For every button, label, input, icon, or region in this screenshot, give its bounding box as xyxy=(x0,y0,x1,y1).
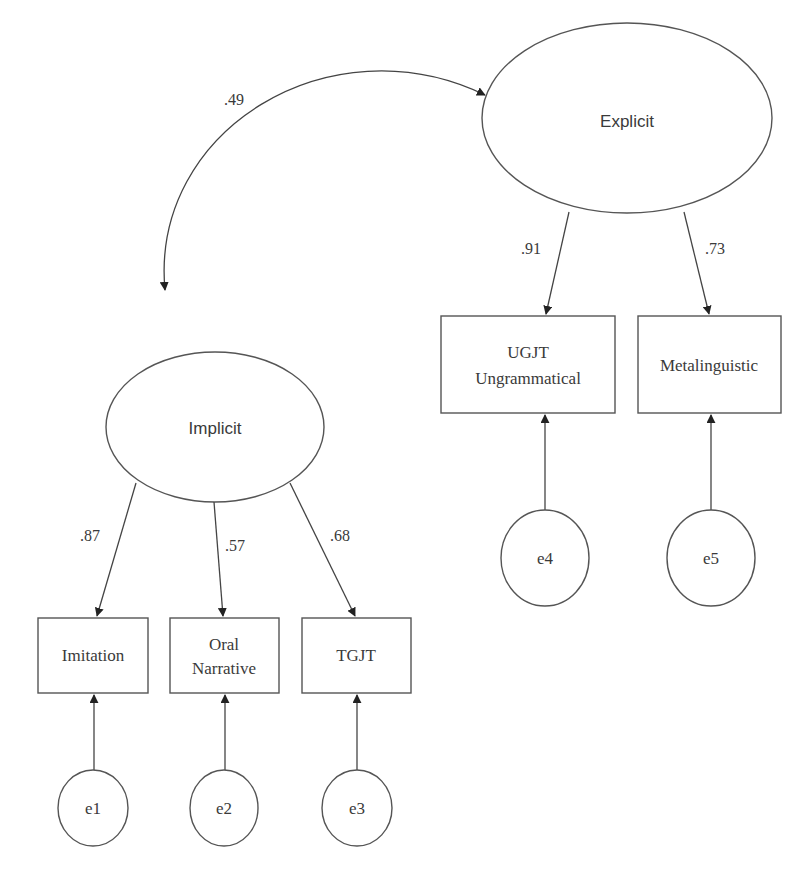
observed-imitation: Imitation xyxy=(38,618,148,693)
loading-arrow-ugjt xyxy=(546,212,569,314)
svg-text:Metalinguistic: Metalinguistic xyxy=(660,356,759,375)
loading-ugjt: .91 xyxy=(521,240,541,257)
latent-implicit: Implicit xyxy=(106,352,324,502)
loading-arrow-metalinguistic xyxy=(684,212,709,314)
error-e2: e2 xyxy=(190,770,258,846)
loading-arrow-oral-narrative xyxy=(214,502,223,616)
error-e1: e1 xyxy=(58,770,128,846)
svg-text:TGJT: TGJT xyxy=(336,646,376,665)
observed-tgjt: TGJT xyxy=(302,618,411,693)
svg-text:Oral: Oral xyxy=(209,635,239,654)
observed-metalinguistic: Metalinguistic xyxy=(638,316,781,413)
svg-text:Imitation: Imitation xyxy=(62,646,125,665)
observed-ugjt: UGJT Ungrammatical xyxy=(441,316,615,413)
svg-text:Implicit: Implicit xyxy=(189,419,242,438)
loading-tgjt: .68 xyxy=(330,527,350,544)
error-e5: e5 xyxy=(667,510,755,606)
svg-text:Explicit: Explicit xyxy=(600,112,654,131)
error-e4: e4 xyxy=(501,510,589,606)
covariance-arc xyxy=(164,71,485,290)
loading-metalinguistic: .73 xyxy=(705,240,725,257)
latent-explicit: Explicit xyxy=(482,23,772,213)
loading-arrow-imitation xyxy=(97,483,136,616)
svg-text:e3: e3 xyxy=(349,799,365,818)
svg-text:e1: e1 xyxy=(85,799,101,818)
loading-oral-narrative: .57 xyxy=(225,537,245,554)
svg-text:UGJT: UGJT xyxy=(507,343,549,362)
svg-text:e5: e5 xyxy=(703,549,719,568)
loading-arrow-tgjt xyxy=(290,483,355,616)
error-e3: e3 xyxy=(322,770,392,846)
svg-text:e4: e4 xyxy=(537,549,554,568)
covariance-value: .49 xyxy=(224,91,244,108)
observed-oral-narrative: Oral Narrative xyxy=(170,618,279,693)
svg-text:Narrative: Narrative xyxy=(192,659,256,678)
sem-diagram: .49 Explicit Implicit .91 .73 .87 .57 .6… xyxy=(0,0,812,880)
loading-imitation: .87 xyxy=(80,527,100,544)
svg-text:e2: e2 xyxy=(216,799,232,818)
svg-text:Ungrammatical: Ungrammatical xyxy=(475,369,581,388)
